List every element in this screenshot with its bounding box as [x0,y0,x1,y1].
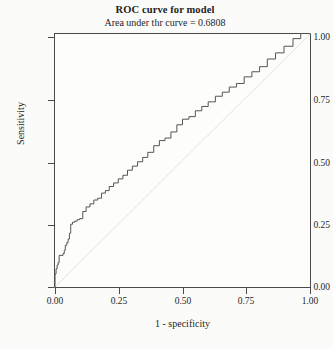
xtick-label-0.50: 0.50 [160,296,206,306]
xtick-mark-0.25 [119,288,120,294]
xtick-mark-0.00 [55,288,56,294]
y-axis-label: Sensitivity [15,64,26,184]
x-axis-label: 1 - specificity [54,318,311,329]
plot-canvas [54,33,311,288]
ytick-mark-0.50 [48,163,54,164]
ytick-label-0.00: 0.00 [286,282,330,292]
xtick-mark-1.00 [310,288,311,294]
xtick-label-0.25: 0.25 [96,296,142,306]
reference-diagonal-line [54,33,311,288]
ytick-mark-0.00 [48,287,54,288]
chart-subtitle: Area under thr curve = 0.6808 [0,17,330,28]
ytick-label-0.50: 0.50 [286,158,330,168]
xtick-label-0.75: 0.75 [223,296,269,306]
chart-title: ROC curve for model [0,4,330,15]
xtick-label-1.00: 1.00 [287,296,333,306]
xtick-label-0.00: 0.00 [32,296,78,306]
xtick-mark-0.50 [183,288,184,294]
ytick-label-1.00: 1.00 [286,32,330,42]
ytick-label-0.75: 0.75 [286,95,330,105]
ytick-label-0.25: 0.25 [286,220,330,230]
ytick-mark-1.00 [48,37,54,38]
ytick-mark-0.75 [48,100,54,101]
xtick-mark-0.75 [246,288,247,294]
ytick-mark-0.25 [48,225,54,226]
